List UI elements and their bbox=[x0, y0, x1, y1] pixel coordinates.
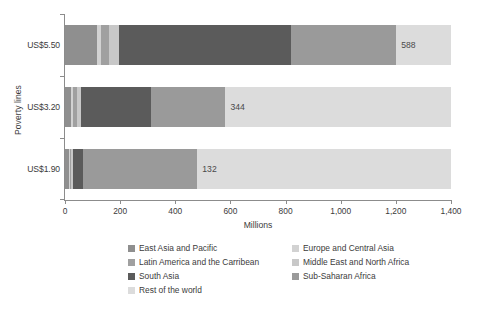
bar-segment[interactable] bbox=[109, 25, 119, 65]
x-tick bbox=[230, 200, 231, 204]
legend-item[interactable]: South Asia bbox=[128, 269, 259, 283]
legend-label: Latin America and the Carribean bbox=[139, 258, 259, 266]
x-tick bbox=[175, 200, 176, 204]
legend-swatch-icon bbox=[128, 273, 135, 280]
bar-segment[interactable] bbox=[101, 25, 108, 65]
category-label: US$3.20 bbox=[4, 102, 60, 112]
legend-item[interactable]: Europe and Central Asia bbox=[292, 241, 409, 255]
x-tick bbox=[341, 200, 342, 204]
bar-us550[interactable] bbox=[65, 25, 451, 65]
x-tick bbox=[120, 200, 121, 204]
x-tick-label: 0 bbox=[63, 206, 68, 216]
legend-column-left: East Asia and PacificLatin America and t… bbox=[128, 241, 259, 297]
legend-label: Middle East and North Africa bbox=[303, 258, 409, 266]
legend-label: Europe and Central Asia bbox=[303, 244, 394, 252]
bar-segment[interactable] bbox=[81, 87, 152, 127]
y-tick bbox=[60, 14, 65, 15]
category-label: US$1.90 bbox=[4, 164, 60, 174]
legend-swatch-icon bbox=[128, 287, 135, 294]
chart-legend: East Asia and PacificLatin America and t… bbox=[128, 241, 458, 303]
legend-label: Sub-Saharan Africa bbox=[303, 272, 376, 280]
legend-swatch-icon bbox=[292, 273, 299, 280]
legend-swatch-icon bbox=[292, 245, 299, 252]
bar-segment[interactable] bbox=[396, 25, 451, 65]
legend-swatch-icon bbox=[128, 245, 135, 252]
bar-us190[interactable] bbox=[65, 149, 451, 189]
x-axis-line bbox=[64, 200, 451, 201]
legend-swatch-icon bbox=[128, 259, 135, 266]
bar-segment[interactable] bbox=[73, 149, 83, 189]
x-tick-label: 200 bbox=[113, 206, 127, 216]
legend-column-right: Europe and Central AsiaMiddle East and N… bbox=[292, 241, 409, 283]
x-tick bbox=[451, 200, 452, 204]
legend-label: East Asia and Pacific bbox=[139, 244, 217, 252]
legend-label: South Asia bbox=[139, 272, 179, 280]
x-tick-label: 1,400 bbox=[441, 206, 462, 216]
plot-area: 02004006008001,0001,2001,400 588344132 M… bbox=[65, 14, 451, 200]
x-tick-label: 400 bbox=[168, 206, 182, 216]
y-tick bbox=[60, 76, 65, 77]
legend-label: Rest of the world bbox=[139, 286, 202, 294]
bar-segment[interactable] bbox=[151, 87, 225, 127]
x-tick-label: 1,200 bbox=[385, 206, 406, 216]
x-axis-title: Millions bbox=[65, 220, 451, 230]
stacked-bar-chart: Poverty lines US$5.50US$3.20US$1.90 0200… bbox=[0, 0, 502, 311]
legend-item[interactable]: East Asia and Pacific bbox=[128, 241, 259, 255]
x-tick bbox=[396, 200, 397, 204]
x-tick-label: 800 bbox=[279, 206, 293, 216]
x-tick bbox=[65, 200, 66, 204]
bar-segment[interactable] bbox=[119, 25, 290, 65]
x-tick-label: 600 bbox=[223, 206, 237, 216]
category-axis-labels: US$5.50US$3.20US$1.90 bbox=[0, 0, 60, 200]
x-tick bbox=[286, 200, 287, 204]
bar-segment[interactable] bbox=[197, 149, 451, 189]
bar-segment[interactable] bbox=[225, 87, 451, 127]
legend-item[interactable]: Rest of the world bbox=[128, 283, 259, 297]
legend-swatch-icon bbox=[292, 259, 299, 266]
x-tick-label: 1,000 bbox=[330, 206, 351, 216]
y-tick bbox=[60, 138, 65, 139]
category-label: US$5.50 bbox=[4, 40, 60, 50]
bar-segment[interactable] bbox=[65, 25, 97, 65]
bar-segment[interactable] bbox=[83, 149, 198, 189]
legend-item[interactable]: Sub-Saharan Africa bbox=[292, 269, 409, 283]
legend-item[interactable]: Middle East and North Africa bbox=[292, 255, 409, 269]
bar-segment[interactable] bbox=[291, 25, 397, 65]
legend-item[interactable]: Latin America and the Carribean bbox=[128, 255, 259, 269]
bar-us320[interactable] bbox=[65, 87, 451, 127]
